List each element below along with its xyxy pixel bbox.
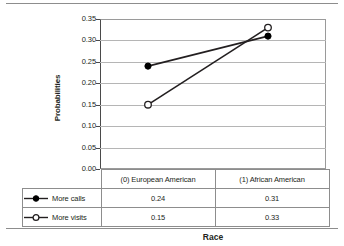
x-axis-title: Race: [100, 232, 326, 242]
y-tick-label: 0.05: [62, 144, 96, 152]
y-axis-title: Probabilities: [53, 58, 62, 138]
data-point-marker-filled: [145, 63, 151, 69]
legend-item-more-visits: More visits: [23, 208, 102, 227]
top-divider-rule: [6, 3, 338, 4]
table-cell-value: 0.24: [101, 189, 215, 208]
data-table: (0) European American (1) African Americ…: [22, 169, 330, 227]
y-tick-label: 0.20: [62, 79, 96, 87]
series-more-visits: [145, 24, 272, 108]
table-header-blank: [23, 170, 102, 189]
y-tick-label: 0.10: [62, 122, 96, 130]
bottom-divider-rule: [6, 228, 338, 229]
data-table-wrapper: (0) European American (1) African Americ…: [22, 169, 326, 226]
legend-marker-filled-circle-icon: [23, 194, 49, 203]
legend-label-more-calls: More calls: [52, 194, 85, 203]
figure-container: Probabilities 0.35 0.30 0.25 0.20 0.15 0…: [0, 0, 344, 246]
y-tick-label: 0.30: [62, 36, 96, 44]
y-tick-label: 0.15: [62, 101, 96, 109]
data-point-marker-open: [145, 101, 152, 108]
table-header-category-1: (1) African American: [215, 170, 329, 189]
plot-area: [100, 19, 326, 169]
table-row: More visits 0.15 0.33: [23, 208, 330, 227]
data-point-marker-filled: [265, 33, 271, 39]
y-tick-label: 0.25: [62, 58, 96, 66]
table-row: More calls 0.24 0.31: [23, 189, 330, 208]
table-header-category-0: (0) European American: [101, 170, 215, 189]
data-point-marker-open: [265, 24, 272, 31]
table-header-row: (0) European American (1) African Americ…: [23, 170, 330, 189]
table-cell-value: 0.15: [101, 208, 215, 227]
legend-label-more-visits: More visits: [52, 213, 87, 222]
table-cell-value: 0.33: [215, 208, 329, 227]
legend-marker-open-circle-icon: [23, 213, 49, 222]
legend-item-more-calls: More calls: [23, 189, 102, 208]
y-tick-label: 0.35: [62, 15, 96, 23]
table-cell-value: 0.31: [215, 189, 329, 208]
series-line-more-visits: [148, 28, 268, 105]
series-line-more-calls: [148, 36, 268, 66]
series-layer: [100, 19, 326, 169]
